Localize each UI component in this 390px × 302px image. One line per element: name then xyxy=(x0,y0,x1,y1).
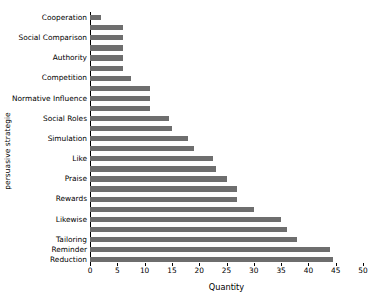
y-tick-label: Rewards xyxy=(56,193,87,204)
x-tick-label: 10 xyxy=(140,266,149,275)
y-tick-label: Likewise xyxy=(56,214,87,225)
x-tick-label: 15 xyxy=(167,266,176,275)
bar xyxy=(90,66,123,71)
bar xyxy=(90,237,297,242)
x-axis-label: Quantity xyxy=(90,282,363,292)
bar xyxy=(90,86,150,91)
y-tick-label: Praise xyxy=(65,173,87,184)
bar-chart-figure: persuasive strategie CooperationSocial C… xyxy=(0,0,390,302)
bar xyxy=(90,207,254,212)
y-tick-label: Normative Influence xyxy=(12,93,87,104)
y-tick-label: Authority xyxy=(53,52,87,63)
y-tick-label: Competition xyxy=(42,72,87,83)
plot-area xyxy=(90,12,363,264)
y-tick-label: Social Roles xyxy=(43,113,87,124)
bar xyxy=(90,166,216,171)
bar xyxy=(90,35,123,40)
bar xyxy=(90,106,150,111)
bar xyxy=(90,116,169,121)
bar xyxy=(90,197,237,202)
x-tick-label: 40 xyxy=(304,266,313,275)
x-tick-label: 30 xyxy=(249,266,258,275)
bar xyxy=(90,176,227,181)
bar xyxy=(90,76,131,81)
bar xyxy=(90,227,287,232)
bar xyxy=(90,247,330,252)
x-axis-tick-labels: 05101520253035404550 xyxy=(90,266,363,280)
bar xyxy=(90,45,123,50)
bar xyxy=(90,257,333,262)
y-axis-tick-labels: CooperationSocial ComparisonAuthorityCom… xyxy=(0,12,87,264)
bar xyxy=(90,25,123,30)
x-tick-label: 50 xyxy=(358,266,367,275)
bar xyxy=(90,96,150,101)
x-tick-label: 25 xyxy=(222,266,231,275)
y-tick-label: Like xyxy=(72,153,87,164)
x-tick-label: 35 xyxy=(276,266,285,275)
bar xyxy=(90,126,172,131)
bar xyxy=(90,217,281,222)
bar xyxy=(90,55,123,60)
y-tick-label: Simulation xyxy=(48,133,87,144)
x-tick-label: 5 xyxy=(115,266,120,275)
bar xyxy=(90,186,237,191)
bar xyxy=(90,156,213,161)
bar xyxy=(90,146,194,151)
bar xyxy=(90,136,188,141)
x-tick-label: 45 xyxy=(331,266,340,275)
x-tick-label: 0 xyxy=(88,266,93,275)
y-tick-label: Reduction xyxy=(50,254,87,265)
x-tick-label: 20 xyxy=(194,266,203,275)
y-tick-label: Social Comparison xyxy=(18,32,87,43)
bar xyxy=(90,15,101,20)
y-tick-label: Cooperation xyxy=(42,12,87,23)
